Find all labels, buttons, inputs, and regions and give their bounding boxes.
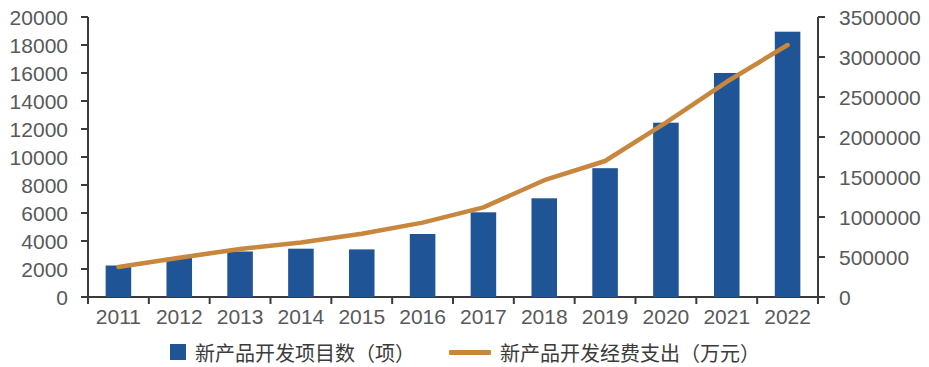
- x-tick-label-2020: 2020: [643, 306, 690, 327]
- bar-2020: [653, 123, 679, 297]
- y-right-tick-label: 1000000: [830, 207, 921, 228]
- bar-2019: [592, 168, 618, 297]
- x-tick-label-2011: 2011: [96, 306, 141, 327]
- bar-2013: [227, 252, 253, 298]
- bar-series-group: [106, 32, 801, 297]
- x-tick-label-2019: 2019: [582, 306, 629, 327]
- bar-2014: [288, 249, 314, 297]
- bar-2015: [349, 249, 375, 297]
- bar-2016: [410, 234, 436, 297]
- y-right-tick-label: 2500000: [830, 87, 921, 108]
- line-series-path: [118, 45, 787, 267]
- y-left-tick-label: 10000: [0, 147, 78, 168]
- y-right-tick-label: 1500000: [830, 167, 921, 188]
- square-swatch-icon: [170, 344, 186, 360]
- bar-2018: [531, 198, 557, 297]
- x-tick-label-2021: 2021: [703, 306, 750, 327]
- y-right-tick-label: 3000000: [830, 47, 921, 68]
- legend-label-bar-series: 新产品开发项目数（项）: [195, 338, 415, 367]
- y-left-tick-label: 14000: [0, 91, 78, 112]
- y-right-tick-marks: [818, 17, 825, 297]
- line-swatch-icon: [449, 350, 491, 355]
- legend-item-line-series[interactable]: 新产品开发经费支出（万元）: [449, 338, 760, 367]
- bar-2017: [471, 212, 497, 297]
- y-left-tick-label: 12000: [0, 119, 78, 140]
- chart-legend: 新产品开发项目数（项） 新产品开发经费支出（万元）: [0, 337, 929, 367]
- x-tick-label-2015: 2015: [338, 306, 385, 327]
- y-left-tick-marks: [81, 17, 88, 297]
- y-left-tick-label: 18000: [0, 35, 78, 56]
- y-left-tick-label: 4000: [0, 231, 78, 252]
- y-right-tick-label: 500000: [830, 247, 909, 268]
- x-tick-label-2012: 2012: [156, 306, 203, 327]
- x-tick-label-2013: 2013: [217, 306, 264, 327]
- bar-2012: [166, 258, 192, 297]
- y-left-tick-label: 6000: [0, 203, 78, 224]
- y-right-tick-label: 2000000: [830, 127, 921, 148]
- x-tick-label-2022: 2022: [764, 306, 811, 327]
- x-tick-label-2018: 2018: [521, 306, 568, 327]
- chart-container: 0200040006000800010000120001400016000180…: [0, 0, 929, 367]
- legend-item-bar-series[interactable]: 新产品开发项目数（项）: [170, 338, 415, 367]
- bar-2022: [775, 32, 801, 297]
- x-tick-label-2014: 2014: [278, 306, 325, 327]
- x-tick-label-2016: 2016: [399, 306, 446, 327]
- y-left-tick-label: 2000: [0, 259, 78, 280]
- x-tick-label-2017: 2017: [460, 306, 507, 327]
- y-left-tick-label: 20000: [0, 7, 78, 28]
- bar-2021: [714, 73, 740, 297]
- y-left-tick-label: 16000: [0, 63, 78, 84]
- x-axis-labels: 2011201220132014201520162017201820192020…: [0, 303, 929, 337]
- bar-2011: [106, 266, 132, 298]
- legend-label-line-series: 新产品开发经费支出（万元）: [500, 338, 760, 367]
- y-right-tick-label: 3500000: [830, 7, 921, 28]
- y-left-tick-label: 8000: [0, 175, 78, 196]
